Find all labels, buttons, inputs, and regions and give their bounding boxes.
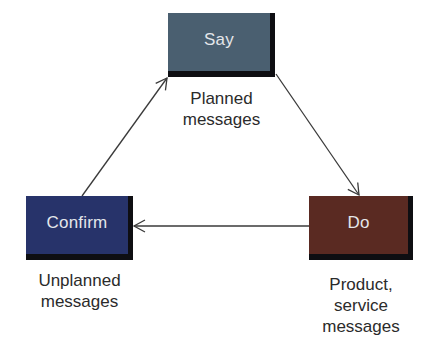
say-do-confirm-diagram: Say Planned messages Do Product, service… xyxy=(0,0,440,357)
confirm-caption: Unplanned messages xyxy=(16,270,143,312)
arrow-say-to-do xyxy=(276,74,359,195)
say-caption-line: messages xyxy=(168,109,275,130)
confirm-caption-line: messages xyxy=(16,291,143,312)
do-caption-line: service xyxy=(296,295,426,316)
say-node: Say xyxy=(168,13,275,77)
say-caption-line: Planned xyxy=(168,88,275,109)
do-node: Do xyxy=(309,196,413,260)
arrow-confirm-to-say xyxy=(82,78,167,196)
confirm-node-label: Confirm xyxy=(47,213,108,233)
do-node-label: Do xyxy=(347,213,369,233)
say-node-label: Say xyxy=(204,30,234,50)
do-caption: Product, service messages xyxy=(296,274,426,337)
say-caption: Planned messages xyxy=(168,88,275,130)
confirm-node: Confirm xyxy=(26,196,133,260)
do-caption-line: messages xyxy=(296,316,426,337)
do-caption-line: Product, xyxy=(296,274,426,295)
confirm-caption-line: Unplanned xyxy=(16,270,143,291)
